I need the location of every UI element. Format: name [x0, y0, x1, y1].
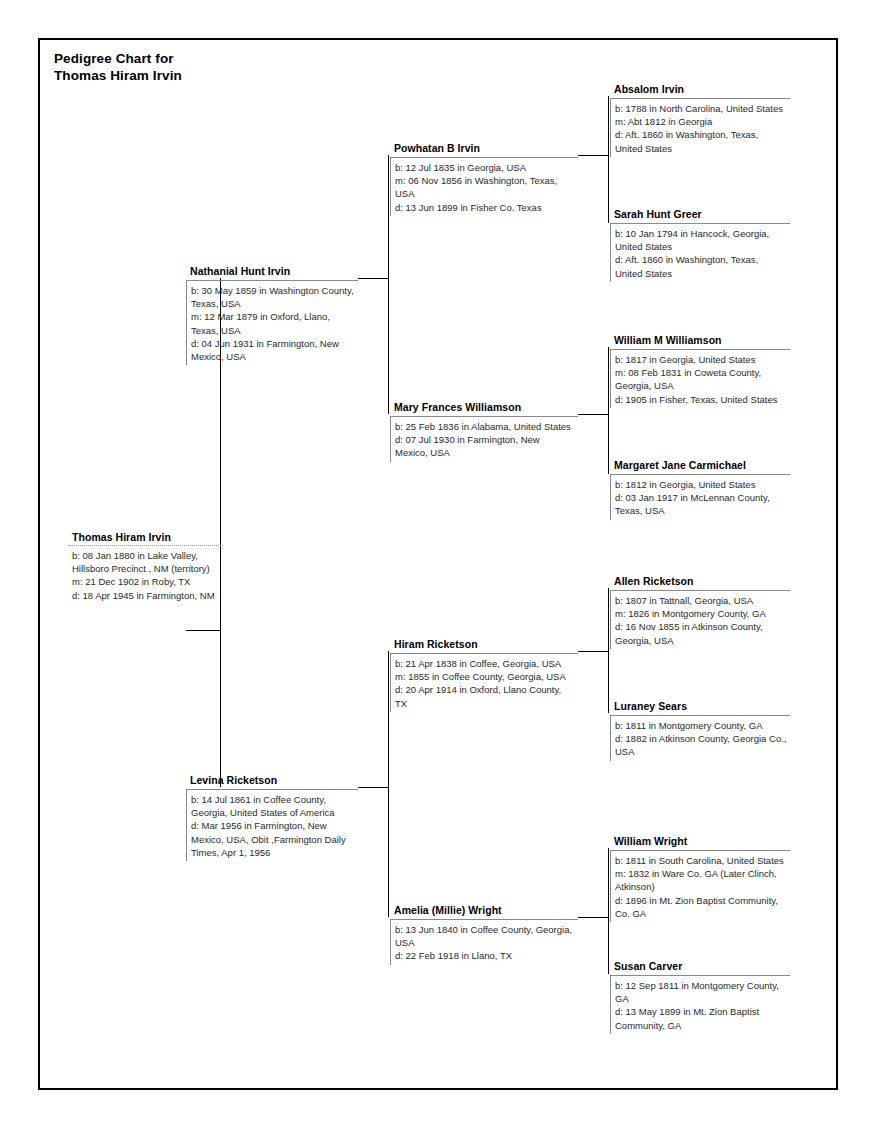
connector-amelia-stub: [578, 917, 608, 918]
person-details: b: 14 Jul 1861 in Coffee County, Georgia…: [186, 789, 358, 861]
person-marriage: m: 06 Nov 1856 in Washington, Texas, USA: [395, 174, 575, 200]
person-death: d: Mar 1956 in Farmington, New Mexico, U…: [191, 819, 355, 859]
connector-hiram-vertical: [608, 588, 609, 713]
person-box-william-m-williamson[interactable]: William M Williamson b: 1817 in Georgia,…: [610, 334, 790, 408]
person-marriage: m: 12 Mar 1879 in Oxford, Llano, Texas, …: [191, 310, 355, 336]
person-death: d: 07 Jul 1930 in Farmington, New Mexico…: [395, 433, 575, 459]
person-name: Margaret Jane Carmichael: [610, 459, 790, 474]
person-details: b: 1811 in Montgomery County, GA d: 1882…: [610, 715, 790, 761]
person-details: b: 1807 in Tattnall, Georgia, USA m: 182…: [610, 590, 790, 649]
person-details: b: 12 Sep 1811 in Montgomery County, GA …: [610, 975, 790, 1034]
person-details: b: 1817 in Georgia, United States m: 08 …: [610, 349, 790, 408]
person-death: d: 22 Feb 1918 in Llano, TX: [395, 949, 575, 962]
person-death: d: 04 Jun 1931 in Farmington, New Mexico…: [191, 337, 355, 363]
person-box-margaret-jane-carmichael[interactable]: Margaret Jane Carmichael b: 1812 in Geor…: [610, 459, 790, 520]
person-name: Susan Carver: [610, 960, 790, 975]
connector-amelia-vertical: [608, 848, 609, 974]
person-details: b: 21 Apr 1838 in Coffee, Georgia, USA m…: [390, 653, 578, 712]
person-birth: b: 1788 in North Carolina, United States: [615, 102, 787, 115]
person-name: Absalom Irvin: [610, 83, 790, 98]
person-name: Nathanial Hunt Irvin: [186, 265, 358, 280]
person-birth: b: 08 Jan 1880 in Lake Valley, Hillsboro…: [72, 549, 220, 575]
person-details: b: 25 Feb 1836 in Alabama, United States…: [390, 416, 578, 462]
person-box-nathanial-hunt-irvin[interactable]: Nathanial Hunt Irvin b: 30 May 1859 in W…: [186, 265, 358, 365]
person-marriage: m: 1826 in Montgomery County, GA: [615, 607, 787, 620]
person-birth: b: 25 Feb 1836 in Alabama, United States: [395, 420, 575, 433]
connector-root-stub: [186, 630, 220, 631]
person-death: d: 13 Jun 1899 in Fisher Co. Texas: [395, 201, 575, 214]
person-death: d: 20 Apr 1914 in Oxford, Llano County, …: [395, 683, 575, 709]
person-marriage: m: 21 Dec 1902 in Roby, TX: [72, 575, 220, 588]
person-birth: b: 1811 in Montgomery County, GA: [615, 719, 787, 732]
person-marriage: m: 1832 in Ware Co. GA (Later Clinch, At…: [615, 867, 787, 893]
person-birth: b: 13 Jun 1840 in Coffee County, Georgia…: [395, 923, 575, 949]
person-details: b: 13 Jun 1840 in Coffee County, Georgia…: [390, 919, 578, 965]
person-box-sarah-hunt-greer[interactable]: Sarah Hunt Greer b: 10 Jan 1794 in Hanco…: [610, 208, 790, 282]
person-birth: b: 1812 in Georgia, United States: [615, 478, 787, 491]
person-marriage: m: Abt 1812 in Georgia: [615, 115, 787, 128]
person-death: d: 1882 in Atkinson County, Georgia Co.,…: [615, 732, 787, 758]
person-birth: b: 1807 in Tattnall, Georgia, USA: [615, 594, 787, 607]
connector-hiram-stub: [578, 651, 608, 652]
connector-mary-stub: [578, 414, 608, 415]
person-details: b: 10 Jan 1794 in Hancock, Georgia, Unit…: [610, 223, 790, 282]
person-details: b: 08 Jan 1880 in Lake Valley, Hillsboro…: [68, 546, 223, 604]
person-name: Hiram Ricketson: [390, 638, 578, 653]
person-name: Luraney Sears: [610, 700, 790, 715]
person-marriage: m: 08 Feb 1831 in Coweta County, Georgia…: [615, 366, 787, 392]
person-death: d: 18 Apr 1945 in Farmington, NM: [72, 589, 220, 602]
person-box-powhatan-b-irvin[interactable]: Powhatan B Irvin b: 12 Jul 1835 in Georg…: [390, 142, 578, 216]
person-box-amelia-millie-wright[interactable]: Amelia (Millie) Wright b: 13 Jun 1840 in…: [390, 904, 578, 965]
person-details: b: 1812 in Georgia, United States d: 03 …: [610, 474, 790, 520]
person-name: Levina Ricketson: [186, 774, 358, 789]
person-birth: b: 14 Jul 1861 in Coffee County, Georgia…: [191, 793, 355, 819]
person-death: d: 1905 in Fisher, Texas, United States: [615, 393, 787, 406]
person-box-luraney-sears[interactable]: Luraney Sears b: 1811 in Montgomery Coun…: [610, 700, 790, 761]
connector-nathanial-stub: [358, 278, 388, 279]
person-name: Sarah Hunt Greer: [610, 208, 790, 223]
person-box-absalom-irvin[interactable]: Absalom Irvin b: 1788 in North Carolina,…: [610, 83, 790, 157]
connector-powhatan-stub: [578, 155, 608, 156]
person-name: Thomas Hiram Irvin: [68, 531, 223, 546]
person-name: Amelia (Millie) Wright: [390, 904, 578, 919]
person-details: b: 1811 in South Carolina, United States…: [610, 850, 790, 922]
person-birth: b: 12 Jul 1835 in Georgia, USA: [395, 161, 575, 174]
person-name: William M Williamson: [610, 334, 790, 349]
person-box-william-wright[interactable]: William Wright b: 1811 in South Carolina…: [610, 835, 790, 922]
page-title: Pedigree Chart for Thomas Hiram Irvin: [54, 50, 182, 84]
person-birth: b: 21 Apr 1838 in Coffee, Georgia, USA: [395, 657, 575, 670]
person-death: d: 13 May 1899 in Mt. Zion Baptist Commu…: [615, 1005, 787, 1031]
person-name: Allen Ricketson: [610, 575, 790, 590]
connector-levina-vertical: [388, 651, 389, 917]
connector-mary-vertical: [608, 347, 609, 474]
person-details: b: 30 May 1859 in Washington County, Tex…: [186, 280, 358, 365]
person-box-levina-ricketson[interactable]: Levina Ricketson b: 14 Jul 1861 in Coffe…: [186, 774, 358, 861]
person-box-allen-ricketson[interactable]: Allen Ricketson b: 1807 in Tattnall, Geo…: [610, 575, 790, 649]
person-death: d: 16 Nov 1855 in Atkinson County, Georg…: [615, 620, 787, 646]
person-details: b: 1788 in North Carolina, United States…: [610, 98, 790, 157]
connector-levina-stub: [358, 787, 388, 788]
person-name: Mary Frances Williamson: [390, 401, 578, 416]
person-birth: b: 30 May 1859 in Washington County, Tex…: [191, 284, 355, 310]
person-birth: b: 1817 in Georgia, United States: [615, 353, 787, 366]
person-box-susan-carver[interactable]: Susan Carver b: 12 Sep 1811 in Montgomer…: [610, 960, 790, 1034]
person-death: d: Aft. 1860 in Washington, Texas, Unite…: [615, 128, 787, 154]
connector-powhatan-vertical: [608, 96, 609, 223]
person-box-hiram-ricketson[interactable]: Hiram Ricketson b: 21 Apr 1838 in Coffee…: [390, 638, 578, 712]
connector-nathanial-vertical: [388, 155, 389, 414]
person-box-mary-frances-williamson[interactable]: Mary Frances Williamson b: 25 Feb 1836 i…: [390, 401, 578, 462]
pedigree-chart-page: Pedigree Chart for Thomas Hiram Irvin Th…: [0, 0, 876, 1137]
person-name: William Wright: [610, 835, 790, 850]
person-birth: b: 12 Sep 1811 in Montgomery County, GA: [615, 979, 787, 1005]
person-birth: b: 1811 in South Carolina, United States: [615, 854, 787, 867]
person-death: d: Aft. 1860 in Washington, Texas, Unite…: [615, 253, 787, 279]
person-details: b: 12 Jul 1835 in Georgia, USA m: 06 Nov…: [390, 157, 578, 216]
person-box-thomas-hiram-irvin[interactable]: Thomas Hiram Irvin b: 08 Jan 1880 in Lak…: [68, 531, 223, 604]
person-death: d: 1896 in Mt. Zion Baptist Community, C…: [615, 894, 787, 920]
person-death: d: 03 Jan 1917 in McLennan County, Texas…: [615, 491, 787, 517]
person-marriage: m: 1855 in Coffee County, Georgia, USA: [395, 670, 575, 683]
person-birth: b: 10 Jan 1794 in Hancock, Georgia, Unit…: [615, 227, 787, 253]
person-name: Powhatan B Irvin: [390, 142, 578, 157]
